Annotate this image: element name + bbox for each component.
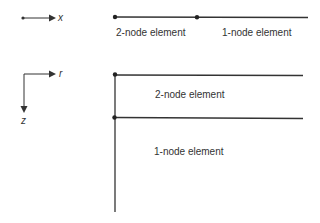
node-dot [113, 72, 117, 76]
radial-1-node-label: 1-node element [154, 147, 224, 157]
node-dot [195, 15, 199, 19]
radial-2-node-label: 2-node element [155, 90, 225, 100]
axial-1-node-label: 1-node element [222, 28, 292, 38]
x-axis-label: x [58, 13, 63, 23]
node-dot [113, 15, 117, 19]
z-axis-label: z [21, 116, 26, 126]
rz-axes-arrows [21, 71, 57, 114]
axial-2-node-label: 2-node element [116, 28, 186, 38]
axial-element-line [113, 15, 308, 20]
r-axis-label: r [59, 69, 62, 79]
x-axis-arrow [21, 15, 56, 22]
node-dot [112, 115, 116, 119]
